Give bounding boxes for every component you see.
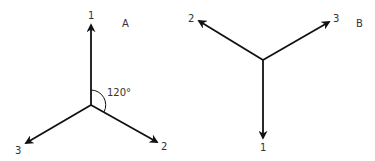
arrow-b-1-label: 1 xyxy=(260,142,266,153)
arrow-b-2 xyxy=(199,21,263,60)
arrow-b-3 xyxy=(263,22,329,60)
diagram-a-label: A xyxy=(122,18,129,29)
arrow-b-3-label: 3 xyxy=(333,13,339,24)
diagram-b: 1 2 3 B xyxy=(188,13,363,153)
phasor-diagrams: 120° 1 2 3 A 1 2 3 B xyxy=(0,0,375,161)
arrow-a-3-label: 3 xyxy=(15,145,21,156)
angle-label: 120° xyxy=(107,87,131,98)
diagram-a: 120° 1 2 3 A xyxy=(15,10,167,156)
arrow-a-2 xyxy=(91,105,157,142)
diagram-b-label: B xyxy=(356,18,363,29)
arrow-a-2-label: 2 xyxy=(161,141,167,152)
arrow-b-2-label: 2 xyxy=(188,13,194,24)
arrow-a-3 xyxy=(26,105,91,143)
arrow-a-1-label: 1 xyxy=(88,10,94,21)
